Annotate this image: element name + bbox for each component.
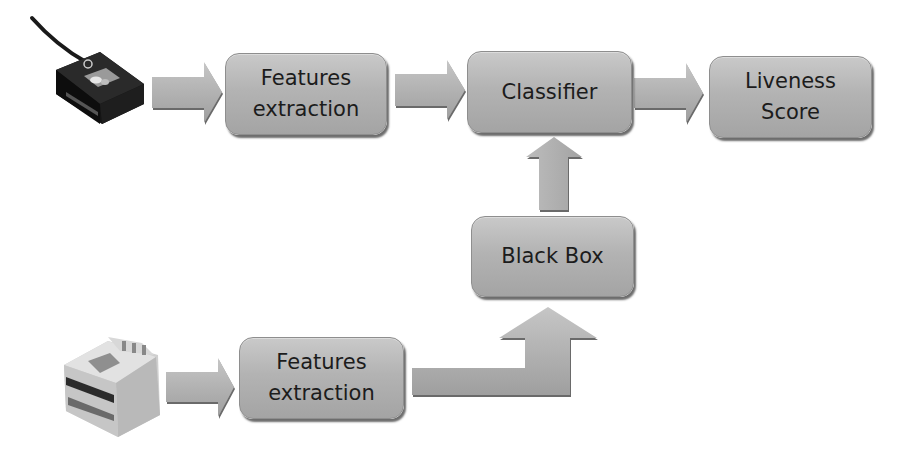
features-extraction-bottom-line1: Features <box>276 347 366 378</box>
arrow-device-to-features-bottom <box>166 358 234 417</box>
fingerprint-scanner-large-icon <box>58 325 168 440</box>
arrow-features-to-blackbox <box>412 307 597 395</box>
arrow-device-to-features-top <box>152 62 222 123</box>
features-extraction-top-line1: Features <box>261 63 351 94</box>
fingerprint-scanner-small-icon <box>28 12 148 127</box>
features-extraction-bottom-box: Features extraction <box>239 337 404 419</box>
arrow-classifier-to-liveness <box>634 63 703 123</box>
diagram-canvas: Features extraction Classifier Liveness … <box>0 0 906 459</box>
liveness-score-line2: Score <box>761 97 820 128</box>
classifier-box: Classifier <box>467 51 632 133</box>
black-box-box: Black Box <box>471 216 634 297</box>
classifier-label: Classifier <box>502 77 598 108</box>
liveness-score-box: Liveness Score <box>709 56 872 138</box>
features-extraction-top-line2: extraction <box>253 94 360 125</box>
liveness-score-line1: Liveness <box>745 66 836 97</box>
features-extraction-bottom-line2: extraction <box>268 378 375 409</box>
black-box-label: Black Box <box>501 241 604 272</box>
arrow-features-to-classifier <box>395 60 465 120</box>
features-extraction-top-box: Features extraction <box>225 53 387 135</box>
arrow-blackbox-to-classifier <box>526 137 582 210</box>
